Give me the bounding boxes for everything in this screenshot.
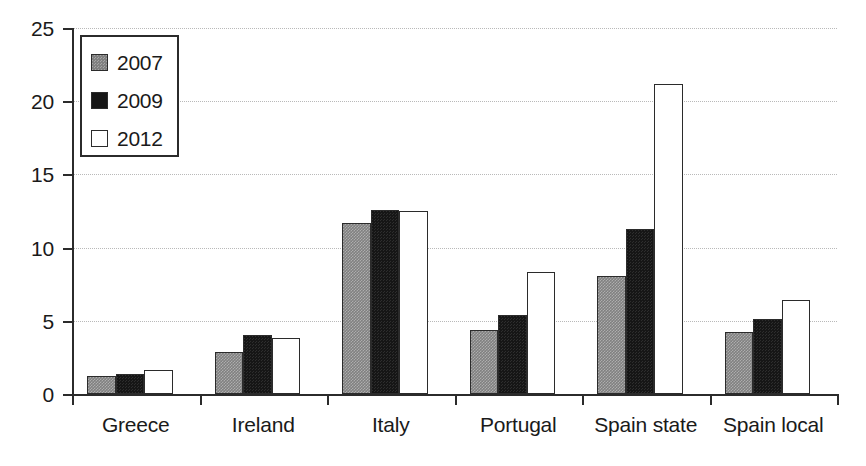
bar-chart: 0510152025 GreeceIrelandItalyPortugalSpa… — [0, 0, 866, 466]
legend-item-2012: 2012 — [91, 121, 177, 155]
gridline — [72, 321, 837, 322]
y-tick-label: 15 — [8, 164, 54, 185]
bar-portugal-2009 — [498, 315, 527, 394]
x-axis-label-ireland: Ireland — [200, 414, 328, 435]
bar-ireland-2012 — [272, 338, 301, 394]
legend-swatch-2012-icon — [91, 130, 108, 147]
bar-italy-2009 — [371, 210, 400, 394]
y-tick-label: 20 — [8, 91, 54, 112]
x-axis-label-italy: Italy — [327, 414, 455, 435]
bar-greece-2012 — [144, 370, 173, 394]
bar-ireland-2007 — [215, 352, 244, 394]
bar-spain-local-2009 — [753, 319, 782, 394]
x-axis-label-spain-local: Spain local — [710, 414, 838, 435]
y-tick-mark — [63, 174, 72, 176]
y-tick-mark — [63, 101, 72, 103]
gridline — [72, 248, 837, 249]
bar-spain-local-2007 — [725, 332, 754, 394]
bar-portugal-2012 — [527, 272, 556, 394]
bar-greece-2009 — [116, 374, 145, 394]
legend-label-2009: 2009 — [117, 90, 163, 111]
gridline — [72, 174, 837, 175]
legend-swatch-2007-icon — [91, 54, 108, 71]
gridline — [72, 101, 837, 102]
x-axis-label-greece: Greece — [72, 414, 200, 435]
bar-spain-state-2012 — [654, 84, 683, 394]
legend-label-2007: 2007 — [117, 52, 163, 73]
y-tick-mark — [63, 28, 72, 30]
bar-spain-state-2009 — [626, 229, 655, 394]
y-tick-mark — [63, 248, 72, 250]
y-axis-line — [72, 28, 74, 395]
bar-greece-2007 — [87, 376, 116, 394]
bar-italy-2007 — [342, 223, 371, 394]
x-axis-label-portugal: Portugal — [455, 414, 583, 435]
legend-item-2009: 2009 — [91, 83, 177, 117]
y-tick-label: 0 — [8, 384, 54, 405]
bar-italy-2012 — [399, 211, 428, 394]
gridline — [72, 28, 837, 29]
plot-area — [72, 28, 837, 394]
y-tick-label: 10 — [8, 238, 54, 259]
legend-item-2007: 2007 — [91, 45, 177, 79]
y-tick-label: 25 — [8, 18, 54, 39]
legend-label-2012: 2012 — [117, 128, 163, 149]
bar-ireland-2009 — [243, 335, 272, 394]
x-axis-line — [72, 394, 838, 396]
legend: 2007 2009 2012 — [80, 35, 179, 157]
y-tick-mark — [63, 321, 72, 323]
y-tick-mark — [63, 394, 72, 396]
bar-portugal-2007 — [470, 330, 499, 394]
y-tick-label: 5 — [8, 311, 54, 332]
x-axis-label-spain-state: Spain state — [582, 414, 710, 435]
bar-spain-state-2007 — [597, 276, 626, 394]
bar-spain-local-2012 — [782, 300, 811, 394]
legend-swatch-2009-icon — [91, 92, 108, 109]
